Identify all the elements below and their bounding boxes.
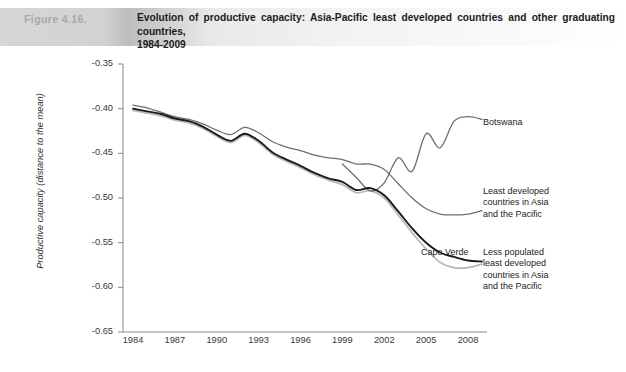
x-axis-tick-label: 1990 (197, 335, 237, 345)
chart-series-lines (133, 105, 482, 268)
y-axis-tick-label: -0.60 (73, 281, 113, 291)
series-label-cape-verde: Cape Verde (421, 247, 469, 258)
y-axis-tick-label: -0.40 (73, 103, 113, 113)
figure-number-label: Figure 4.16. (24, 13, 87, 25)
x-axis-tick-label: 1987 (155, 335, 195, 345)
y-axis-tick-label: -0.55 (73, 237, 113, 247)
series-line-cape-verde (133, 109, 482, 262)
y-axis-tick-label: -0.65 (73, 326, 113, 336)
series-label-botswana: Botswana (483, 117, 523, 128)
y-axis-tick-label: -0.45 (73, 147, 113, 157)
x-axis-tick-label: 1996 (281, 335, 321, 345)
x-axis-tick-label: 1984 (113, 335, 153, 345)
series-label-less-populated: Less populated least developed countries… (483, 247, 549, 293)
x-axis-tick-label: 2008 (448, 335, 488, 345)
series-line-botswana (342, 117, 482, 191)
x-axis-tick-label: 2002 (364, 335, 404, 345)
y-axis-ticks (118, 64, 123, 332)
chart-container: Productive capacity (distance to the mea… (0, 46, 626, 372)
x-axis-tick-label: 1999 (322, 335, 362, 345)
x-axis-tick-label: 2005 (406, 335, 446, 345)
series-label-ldc-asia-pacific: Least developed countries in Asia and th… (483, 186, 549, 220)
figure-title-line-1: Evolution of productive capacity: Asia-P… (137, 12, 615, 37)
chart-axes (118, 64, 487, 332)
y-axis-tick-label: -0.35 (73, 58, 113, 68)
y-axis-tick-label: -0.50 (73, 192, 113, 202)
x-axis-tick-label: 1993 (239, 335, 279, 345)
